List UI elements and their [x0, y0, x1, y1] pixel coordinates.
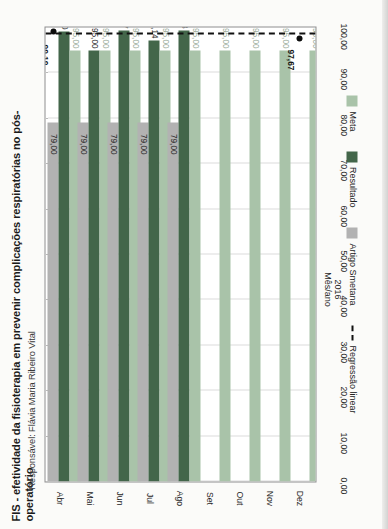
bar-smetana [77, 122, 88, 481]
bar-meta [309, 50, 316, 481]
category-label: Mai [84, 485, 94, 511]
bar-group: 79,0095,0095,00 [75, 27, 105, 481]
bar-group: 79,0099,1095,00 [45, 27, 75, 481]
bar-resultado [178, 31, 189, 482]
bar-value-label: 95,00 [88, 27, 99, 48]
bar-value-label: 79,00 [137, 134, 148, 155]
bar-group: 79,0097,1495,00 [135, 27, 165, 481]
legend-label: Resultado [347, 167, 357, 208]
legend-item-resultado[interactable]: Resultado [346, 151, 357, 208]
bar-value-label: 79,00 [47, 134, 58, 155]
bar-value-label: 79,00 [167, 134, 178, 155]
legend-swatch-meta-icon [346, 95, 357, 106]
bar-resultado [148, 40, 159, 481]
bar-group: 79,0099,2395,00 [165, 27, 195, 481]
bar-value-label: 79,00 [77, 134, 88, 155]
legend-swatch-regressao-icon [351, 325, 353, 340]
page-subtitle: Responsável: Flávia Maria Ribeiro Vital [26, 69, 36, 489]
bar-smetana [47, 122, 58, 481]
regression-line [45, 32, 315, 34]
projection-dot [50, 28, 56, 34]
bar-group: 79,0099,2795,00 [105, 27, 135, 481]
category-label: Jun [114, 485, 124, 511]
legend-item-regressao[interactable]: Regressão linear [347, 325, 357, 413]
plot-area: 79,0099,1095,0079,0095,0095,0079,0099,27… [44, 26, 316, 482]
bar-resultado [118, 30, 129, 481]
bar-smetana [137, 122, 148, 481]
bar-group: 95,00 [285, 27, 315, 481]
chart-figure: FIS - efetividade da fisioterapia em pre… [0, 0, 388, 529]
legend-label: Regressão linear [347, 345, 357, 413]
bar-group: 95,00 [255, 27, 285, 481]
axis-title-year: 2016 [332, 249, 342, 329]
category-label: Set [204, 485, 214, 511]
category-label: Dez [294, 485, 304, 511]
scanned-page: FIS - efetividade da fisioterapia em pre… [0, 0, 388, 529]
bar-value-label: 79,00 [107, 134, 118, 155]
bar-resultado [58, 31, 69, 481]
category-label: Nov [264, 485, 274, 511]
category-label: Out [234, 485, 244, 511]
axis-title-label: Mês/ano [322, 249, 332, 329]
plot-inner: 79,0099,1095,0079,0095,0095,0079,0099,27… [45, 27, 315, 481]
trend-start-dot [296, 35, 302, 41]
bar-group: 95,00 [195, 27, 225, 481]
category-label: Abr [54, 485, 64, 511]
bar-value-label: 99,27 [118, 27, 129, 28]
legend-item-smetana[interactable]: Artigo Smetana [346, 227, 357, 305]
chart-legend: MetaResultadoArtigo SmetanaRegressão lin… [346, 26, 357, 482]
rotated-figure-stage: FIS - efetividade da fisioterapia em pre… [0, 0, 388, 529]
bar-value-label: 95,00 [309, 27, 316, 48]
legend-label: Meta [347, 111, 357, 131]
legend-swatch-smetana-icon [346, 227, 357, 238]
projection-label: 99,19 [45, 44, 49, 65]
bar-smetana [167, 122, 178, 481]
bar-resultado [88, 50, 99, 481]
category-label: Ago [174, 485, 184, 511]
legend-swatch-resultado-icon [346, 151, 357, 162]
legend-item-meta[interactable]: Meta [346, 95, 357, 131]
trend-start-label: 97,67 [285, 49, 295, 70]
legend-label: Artigo Smetana [347, 243, 357, 305]
bar-group: 95,00 [225, 27, 255, 481]
axis-title: 2016 Mês/ano [322, 249, 343, 329]
category-label: Jul [144, 485, 154, 511]
bar-value-label: 99,10 [58, 27, 69, 29]
bar-smetana [107, 122, 118, 481]
bar-value-label: 99,23 [178, 27, 189, 29]
